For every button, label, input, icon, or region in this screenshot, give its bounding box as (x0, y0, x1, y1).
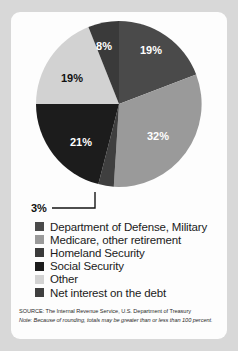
legend-item-label: Department of Defense, Military (50, 221, 207, 233)
legend-swatch-icon (35, 262, 44, 271)
legend-item-homeland-security[interactable]: Homeland Security (35, 246, 215, 259)
pie-chart-svg: 19% 32% 8% 21% 19% (34, 16, 204, 221)
slice-value-other: 19% (61, 72, 83, 84)
chart-footer: SOURCE: The Internal Revenue Service, U.… (19, 307, 223, 325)
legend-swatch-icon (35, 275, 44, 284)
legend-item-net-interest-on-the-debt[interactable]: Net interest on the debt (35, 286, 215, 299)
chart-legend: Department of Defense, Military Medicare… (35, 220, 215, 299)
legend-item-label: Homeland Security (50, 247, 145, 259)
legend-swatch-icon (35, 235, 44, 244)
source-text: SOURCE: The Internal Revenue Service, U.… (19, 307, 223, 316)
legend-swatch-icon (35, 222, 44, 231)
slice-value-medicare-other-retirement: 32% (147, 130, 169, 142)
slice-value-social-security: 21% (70, 136, 92, 148)
legend-swatch-icon (35, 248, 44, 257)
slice-value-department-of-defense-military: 19% (140, 44, 162, 56)
legend-item-other[interactable]: Other (35, 273, 215, 286)
note-text: Note: Because of rounding, totals may be… (19, 316, 223, 325)
slice-value-homeland-security: 8% (96, 40, 112, 52)
chart-card: 19% 32% 8% 21% 19% 3% Department of Defe… (11, 12, 227, 339)
legend-item-medicare-other-retirement[interactable]: Medicare, other retirement (35, 233, 215, 246)
legend-item-label: Net interest on the debt (50, 287, 166, 299)
legend-item-label: Social Security (50, 260, 124, 272)
legend-swatch-icon (35, 288, 44, 297)
legend-item-label: Other (50, 273, 78, 285)
legend-item-label: Medicare, other retirement (50, 234, 181, 246)
legend-item-department-of-defense-military[interactable]: Department of Defense, Military (35, 220, 215, 233)
pie-chart: 19% 32% 8% 21% 19% 3% (11, 16, 227, 221)
legend-item-social-security[interactable]: Social Security (35, 260, 215, 273)
slice-value-net-interest-on-the-debt: 3% (31, 202, 47, 214)
